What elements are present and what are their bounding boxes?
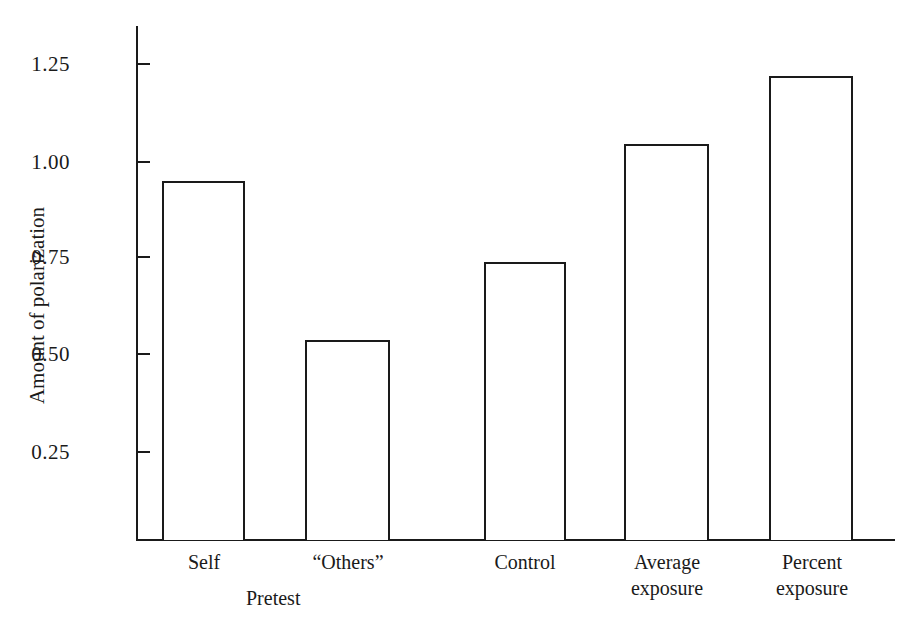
y-tick-mark-0-25 — [137, 451, 150, 453]
x-category-label-self: Self — [148, 549, 260, 575]
y-tick-label-1-00: 1.00 — [0, 150, 70, 175]
x-category-label-percent-exposure: Percent exposure — [751, 549, 873, 601]
bar-control — [484, 262, 566, 540]
y-tick-mark-0-75 — [137, 256, 150, 258]
bar-self — [162, 181, 245, 540]
y-tick-mark-1-25 — [137, 63, 150, 65]
y-axis-title: Amount of polarization — [25, 161, 50, 451]
plot-area: Amount of polarization 1.25 1.00 0.75 0.… — [0, 0, 921, 635]
bar-average-exposure — [624, 144, 709, 540]
chart-figure: Amount of polarization 1.25 1.00 0.75 0.… — [0, 0, 921, 635]
y-tick-label-0-75: 0.75 — [0, 245, 70, 270]
x-category-label-control: Control — [466, 549, 584, 575]
y-axis-line — [136, 26, 138, 541]
x-category-label-average-exposure: Average exposure — [606, 549, 728, 601]
bar-others — [305, 340, 390, 540]
bar-percent-exposure — [769, 76, 853, 540]
y-tick-label-1-25: 1.25 — [0, 52, 70, 77]
y-tick-mark-1-00 — [137, 161, 150, 163]
y-tick-mark-0-50 — [137, 353, 150, 355]
y-tick-label-0-50: 0.50 — [0, 342, 70, 367]
x-group-label-pretest: Pretest — [246, 587, 300, 610]
x-category-label-others: “Others” — [287, 549, 409, 575]
y-tick-label-0-25: 0.25 — [0, 440, 70, 465]
